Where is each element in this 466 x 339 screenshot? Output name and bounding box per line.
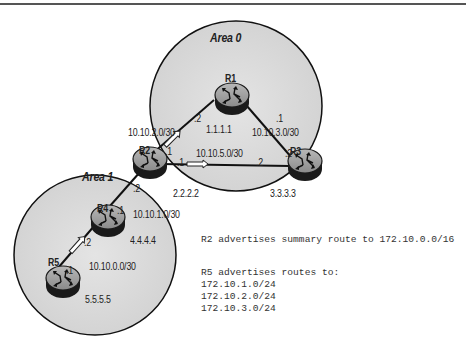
if-r1-to-r2: .2 [194,113,201,124]
router-r1-id: 1.1.1.1 [206,124,232,135]
router-r4-id: 4.4.4.4 [130,235,156,246]
area-1-label: Area 1 [82,170,113,184]
summary-note: R2 advertises summary route to 172.10.0.… [201,234,454,246]
router-r1-icon[interactable] [215,83,249,115]
if-r3-to-r1: .2 [285,148,292,159]
router-r4-name: R4 [97,203,108,214]
router-r5-name: R5 [48,257,59,268]
if-r2-to-r4: .2 [133,183,140,194]
network-label-r5-r4: 10.10.0.0/30 [89,261,136,272]
if-r4-to-r2: .1 [117,205,124,216]
router-r5-icon[interactable] [46,266,80,298]
r5-route-item: 172.10.2.0/24 [201,291,276,303]
router-r1-name: R1 [225,73,236,84]
router-r3-id: 3.3.3.3 [270,188,296,199]
if-r5-to-r4: .1 [66,265,73,276]
network-label-r1-r3: 10.10.3.0/30 [252,127,299,138]
r5-route-item: 172.10.1.0/24 [201,279,276,291]
r5-route-item: 172.10.3.0/24 [201,303,276,315]
if-r3-to-r2: .2 [256,157,263,168]
if-r2-to-r3: .1 [177,157,184,168]
network-label-r4-r2: 10.10.1.0/30 [133,209,180,220]
router-r5-id: 5.5.5.5 [85,294,111,305]
network-label-r2-r3: 10.10.5.0/30 [196,148,243,159]
area-1-circle [14,175,176,335]
router-r2-id: 2.2.2.2 [173,188,199,199]
area-0-label: Area 0 [210,31,241,45]
if-r4-to-r5: .2 [84,237,91,248]
network-label-r2-r1: 10.10.2.0/30 [128,127,175,138]
router-r2-name: R2 [139,145,150,156]
if-r1-to-r3: .1 [276,113,283,124]
if-r2-to-r1: .1 [165,146,172,157]
r5-routes-heading: R5 advertises routes to: [201,267,339,279]
